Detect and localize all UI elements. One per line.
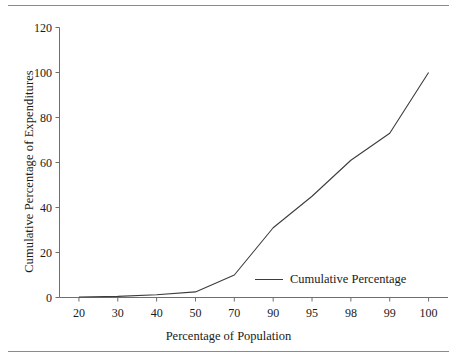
x-tick-label: 20 <box>73 306 85 321</box>
y-tick-label: 120 <box>18 20 52 35</box>
x-tick-label: 70 <box>228 306 240 321</box>
x-tick-label: 99 <box>384 306 396 321</box>
x-tick-label: 50 <box>189 306 201 321</box>
chart-figure: 020406080100120 203040507090959899100 Cu… <box>0 0 457 361</box>
legend-line-swatch <box>255 279 283 280</box>
x-tick-label: 100 <box>420 306 438 321</box>
x-tick-label: 98 <box>345 306 357 321</box>
y-axis-title: Cumulative Percentage of Expenditures <box>22 47 37 297</box>
x-tick-label: 30 <box>112 306 124 321</box>
x-axis-title: Percentage of Population <box>0 329 457 344</box>
legend-label-cumulative-percentage: Cumulative Percentage <box>290 272 406 287</box>
x-tick-label: 40 <box>151 306 163 321</box>
chart-legend: Cumulative Percentage <box>255 272 406 287</box>
x-tick-label: 90 <box>267 306 279 321</box>
series-line-0 <box>79 73 429 298</box>
x-tick-label: 95 <box>306 306 318 321</box>
